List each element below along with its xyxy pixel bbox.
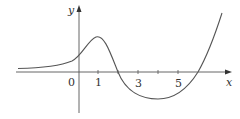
x-axis-arrow-icon bbox=[225, 70, 232, 75]
tick-label-1: 1 bbox=[95, 76, 102, 89]
tick-label-3: 3 bbox=[135, 77, 142, 90]
function-graph: y x 0 1 3 5 bbox=[0, 0, 240, 119]
origin-label: 0 bbox=[68, 76, 75, 89]
y-axis-label: y bbox=[67, 4, 75, 17]
tick-label-5: 5 bbox=[175, 77, 182, 90]
y-axis-arrow-icon bbox=[77, 5, 82, 12]
x-axis-label: x bbox=[226, 76, 233, 89]
function-curve bbox=[18, 13, 222, 99]
